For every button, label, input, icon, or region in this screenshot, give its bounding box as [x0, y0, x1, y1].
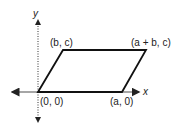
parallelogram-shape [38, 50, 146, 92]
vertex-label-origin: (0, 0) [40, 96, 63, 107]
vertex-label-a-plus-b-c: (a + b, c) [131, 37, 171, 48]
y-axis-label: y [32, 8, 39, 19]
parallelogram-diagram: y x (b, c) (a + b, c) (0, 0) (a, 0) [0, 0, 178, 131]
x-axis-label: x [142, 86, 149, 97]
vertex-label-b-c: (b, c) [50, 37, 73, 48]
vertex-label-a-0: (a, 0) [110, 96, 133, 107]
